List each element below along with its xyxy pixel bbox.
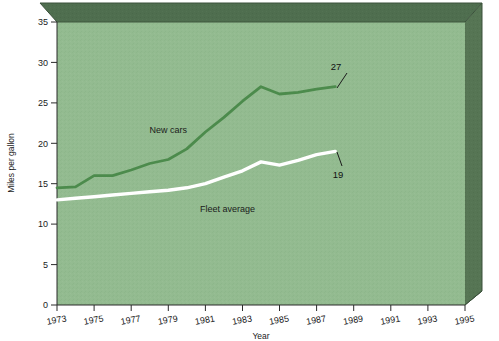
y-tick-label: 15 [38, 179, 48, 189]
series-label-fleet-average: Fleet average [200, 204, 255, 214]
y-tick-label: 20 [38, 139, 48, 149]
y-tick-label: 30 [38, 58, 48, 68]
y-axis-ticks [51, 22, 57, 305]
x-tick-label: 1987 [305, 313, 326, 326]
x-axis-tick-labels: 1973 1975 1977 1979 1981 1983 1985 1987 … [46, 313, 475, 326]
y-tick-label: 5 [43, 260, 48, 270]
y-tick-label: 35 [38, 17, 48, 27]
x-tick-label: 1981 [194, 313, 215, 326]
mpg-line-chart: 0 5 10 15 20 25 30 35 1973 1975 [0, 0, 499, 341]
frame-right-face [465, 3, 482, 305]
y-tick-label: 10 [38, 219, 48, 229]
x-axis-ticks [57, 305, 465, 311]
x-tick-label: 1993 [417, 313, 438, 326]
y-axis-title: Miles per gallon [6, 133, 16, 193]
x-tick-label: 1977 [120, 313, 141, 326]
frame-top-face [40, 3, 482, 22]
y-tick-label: 25 [38, 98, 48, 108]
x-tick-label: 1975 [83, 313, 104, 326]
x-axis-title: Year [252, 331, 269, 341]
x-tick-label: 1991 [380, 313, 401, 326]
x-tick-label: 1995 [454, 313, 475, 326]
series-label-new-cars: New cars [150, 125, 188, 135]
x-tick-label: 1989 [342, 313, 363, 326]
y-tick-label: 0 [43, 300, 48, 310]
new-cars-end-value: 27 [331, 61, 342, 72]
x-tick-label: 1983 [231, 313, 252, 326]
chart-figure: 0 5 10 15 20 25 30 35 1973 1975 [0, 0, 499, 341]
x-tick-label: 1985 [268, 313, 289, 326]
y-axis-tick-labels: 0 5 10 15 20 25 30 35 [38, 17, 48, 310]
x-tick-label: 1973 [46, 313, 67, 326]
fleet-average-end-value: 19 [333, 169, 344, 180]
x-tick-label: 1979 [157, 313, 178, 326]
